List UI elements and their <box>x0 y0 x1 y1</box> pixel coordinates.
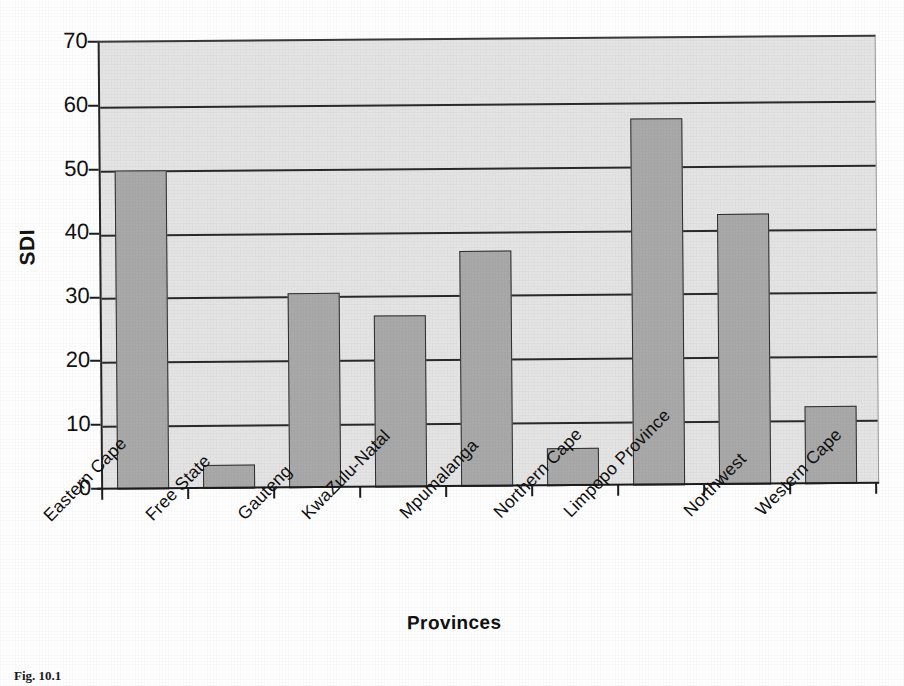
figure-container: SDI 70 60 50 40 30 20 10 0 <box>0 0 904 686</box>
x-tick-mark <box>101 489 103 500</box>
figure-number: Fig. 10.1 <box>14 668 61 683</box>
x-tick-mark <box>617 485 619 496</box>
x-tick-mark <box>359 487 361 498</box>
y-axis-tick-labels: 70 60 50 40 30 20 10 0 <box>41 3 92 686</box>
y-tick-label: 60 <box>42 94 88 116</box>
y-tick-label: 20 <box>44 349 90 371</box>
figure-caption: Fig. 10.1 <box>14 668 61 686</box>
gridline-50 <box>101 165 876 173</box>
x-tick-mark <box>445 486 447 497</box>
bar-kwazulu-natal <box>374 315 427 488</box>
y-tick-label: 70 <box>42 30 88 52</box>
bar-northwest <box>717 213 771 485</box>
y-tick-label: 50 <box>43 158 89 180</box>
x-axis-title: Provinces <box>2 608 904 637</box>
gridline-60 <box>100 101 875 109</box>
y-tick-label: 30 <box>44 285 90 307</box>
y-tick-label: 40 <box>43 221 89 243</box>
bar-chart: SDI 70 60 50 40 30 20 10 0 <box>0 0 904 686</box>
x-tick-mark <box>875 483 877 494</box>
y-tick-label: 10 <box>45 413 91 435</box>
y-axis-title: SDI <box>15 227 39 267</box>
bar-gauteng <box>288 293 342 488</box>
plot-area <box>98 35 880 490</box>
